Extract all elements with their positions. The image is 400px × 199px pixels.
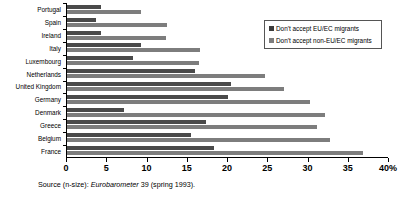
category-label: Portugal (0, 3, 64, 16)
bar-segment (67, 133, 191, 137)
bar-segment (67, 125, 317, 129)
bar-segment (67, 5, 101, 9)
bar-segment (67, 36, 166, 40)
bar-segment (67, 23, 167, 27)
x-axis-tick (388, 158, 389, 162)
x-axis-tick (227, 158, 228, 162)
legend-label: Don't accept EU/EC migrants (276, 25, 359, 33)
x-axis-tick-label: 5 (104, 163, 109, 174)
bar-segment (67, 69, 195, 73)
x-axis-tick (267, 158, 268, 162)
x-axis-tick-label: 30 (302, 163, 312, 174)
x-axis-tick-label: 35 (343, 163, 353, 174)
source-prefix: Source (n-size): (38, 180, 91, 189)
bar-segment (67, 61, 199, 65)
y-axis-tick (66, 55, 69, 68)
y-axis-tick (66, 29, 69, 42)
category-label: Belgium (0, 132, 64, 145)
bar-segment (67, 100, 310, 104)
y-axis-tick (66, 93, 69, 106)
bar-segment (67, 43, 141, 47)
bar-row (67, 144, 388, 157)
x-axis-tick-label: 15 (182, 163, 192, 174)
bar-segment (67, 10, 141, 14)
bar-segment (67, 95, 228, 99)
y-axis-tick (66, 68, 69, 81)
bar-segment (67, 108, 124, 112)
y-axis-tick (66, 3, 69, 16)
bar-segment (67, 74, 265, 78)
legend-swatch-icon (269, 26, 274, 31)
category-label: France (0, 145, 64, 158)
x-axis-tick (187, 158, 188, 162)
bar-segment (67, 120, 206, 124)
x-axis-tick-label: 0 (63, 163, 68, 174)
category-label: Spain (0, 16, 64, 29)
bar-segment (67, 56, 133, 60)
bar-segment (67, 138, 330, 142)
chart-legend: Don't accept EU/EC migrantsDon't accept … (264, 20, 382, 49)
category-label: Germany (0, 93, 64, 106)
bar-segment (67, 48, 200, 52)
x-axis-tick (147, 158, 148, 162)
y-axis-ticks (66, 3, 69, 158)
bar-row (67, 3, 388, 16)
y-axis-tick (66, 16, 69, 29)
category-label: Denmark (0, 106, 64, 119)
x-axis-tick (106, 158, 107, 162)
bar-row (67, 106, 388, 119)
y-axis-tick (66, 119, 69, 132)
x-axis-ticks (66, 158, 388, 162)
category-label: Luxembourg (0, 55, 64, 68)
bar-row (67, 54, 388, 67)
category-label: Italy (0, 42, 64, 55)
bar-segment (67, 151, 363, 155)
bar-segment (67, 146, 214, 150)
bar-row (67, 118, 388, 131)
bar-segment (67, 87, 284, 91)
bar-row (67, 93, 388, 106)
legend-item: Don't accept non-EU/EC migrants (269, 37, 378, 45)
bar-row (67, 67, 388, 80)
category-label: Ireland (0, 29, 64, 42)
category-label: United Kingdom (0, 81, 64, 94)
y-axis-tick (66, 81, 69, 94)
x-axis-tick (66, 158, 67, 162)
bar-row (67, 131, 388, 144)
category-label: Netherlands (0, 68, 64, 81)
bar-chart: PortugalSpainIrelandItalyLuxembourgNethe… (0, 0, 400, 199)
x-axis-tick-label: 10 (141, 163, 151, 174)
x-axis-tick-label: 40% (379, 163, 397, 174)
category-label: Greece (0, 119, 64, 132)
source-publication: Eurobarometer (91, 180, 139, 189)
source-suffix: 39 (spring 1993). (139, 180, 195, 189)
x-axis-tick-label: 25 (262, 163, 272, 174)
source-note: Source (n-size): Eurobarometer 39 (sprin… (38, 180, 195, 189)
legend-label: Don't accept non-EU/EC migrants (276, 37, 372, 45)
y-axis-tick (66, 145, 69, 158)
bar-segment (67, 113, 325, 117)
y-axis-tick (66, 132, 69, 145)
category-axis-labels: PortugalSpainIrelandItalyLuxembourgNethe… (0, 3, 64, 158)
y-axis-tick (66, 42, 69, 55)
bar-segment (67, 31, 101, 35)
x-axis-tick (308, 158, 309, 162)
legend-swatch-icon (269, 38, 274, 43)
y-axis-tick (66, 106, 69, 119)
x-axis-tick (348, 158, 349, 162)
bar-segment (67, 18, 96, 22)
legend-item: Don't accept EU/EC migrants (269, 25, 378, 33)
x-axis-tick-label: 20 (222, 163, 232, 174)
bar-segment (67, 82, 231, 86)
x-axis-labels: 0510152025303540% (0, 163, 400, 175)
bar-row (67, 80, 388, 93)
